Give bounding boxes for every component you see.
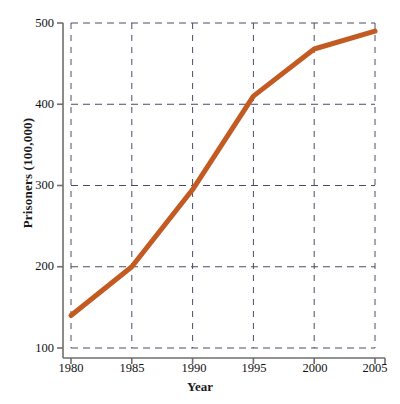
chart-figure: Prisoners (100,000) Year 500 400 300 200…	[0, 0, 400, 404]
series-line-Prisoners	[71, 31, 375, 315]
plot-area	[0, 0, 400, 404]
data-series	[71, 31, 375, 315]
axis-ticks	[57, 23, 385, 364]
grid-lines	[71, 23, 375, 348]
axis-lines	[63, 23, 385, 358]
